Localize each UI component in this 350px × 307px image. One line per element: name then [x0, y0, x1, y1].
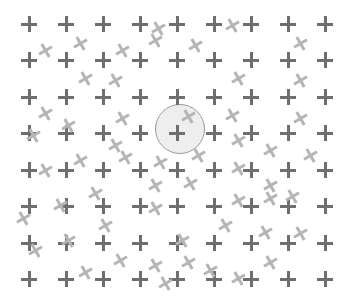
cross-icon	[95, 235, 111, 251]
cross-icon	[58, 52, 74, 68]
rotated-cross-icon	[35, 160, 55, 180]
cross-icon	[169, 89, 185, 105]
rotated-cross-icon	[228, 68, 248, 88]
cross-icon	[132, 52, 148, 68]
cross-icon	[95, 16, 111, 32]
cross-icon	[206, 52, 222, 68]
rotated-cross-icon	[222, 105, 242, 125]
cross-icon	[243, 89, 259, 105]
cross-icon	[317, 125, 333, 141]
rotated-cross-icon	[290, 70, 310, 90]
cross-pattern-stimulus	[0, 0, 350, 307]
cross-icon	[169, 16, 185, 32]
cross-icon	[21, 271, 37, 287]
cross-icon	[206, 125, 222, 141]
cross-icon	[169, 52, 185, 68]
rotated-cross-icon	[260, 252, 280, 272]
cross-icon	[21, 89, 37, 105]
rotated-cross-icon	[110, 250, 130, 270]
cross-icon	[317, 235, 333, 251]
rotated-cross-icon	[290, 33, 310, 53]
cross-icon	[317, 162, 333, 178]
cross-icon	[280, 16, 296, 32]
cross-icon	[21, 16, 37, 32]
rotated-cross-icon	[112, 108, 132, 128]
cross-icon	[206, 235, 222, 251]
cross-icon	[21, 52, 37, 68]
rotated-cross-icon	[35, 40, 55, 60]
cross-icon	[280, 52, 296, 68]
rotated-cross-icon	[178, 252, 198, 272]
cross-icon	[317, 198, 333, 214]
cross-icon	[280, 125, 296, 141]
rotated-cross-icon	[215, 215, 235, 235]
rotated-cross-icon	[75, 262, 95, 282]
cross-icon	[132, 162, 148, 178]
cross-icon	[95, 162, 111, 178]
cross-icon	[280, 271, 296, 287]
cross-icon	[95, 89, 111, 105]
cross-icon	[132, 89, 148, 105]
cross-icon	[317, 52, 333, 68]
rotated-cross-icon	[222, 15, 242, 35]
cross-icon	[58, 89, 74, 105]
cross-icon	[95, 271, 111, 287]
cross-icon	[58, 271, 74, 287]
cross-icon	[317, 16, 333, 32]
cross-icon	[21, 162, 37, 178]
cross-icon	[206, 89, 222, 105]
cross-icon	[317, 271, 333, 287]
cross-icon	[58, 16, 74, 32]
rotated-cross-icon	[70, 33, 90, 53]
cross-icon	[280, 162, 296, 178]
cross-icon	[132, 235, 148, 251]
rotated-cross-icon	[185, 35, 205, 55]
rotated-cross-icon	[150, 152, 170, 172]
rotated-cross-icon	[35, 103, 55, 123]
rotated-cross-icon	[260, 140, 280, 160]
cross-icon	[95, 52, 111, 68]
cross-icon	[206, 162, 222, 178]
cross-icon	[280, 89, 296, 105]
rotated-cross-icon	[105, 70, 125, 90]
cross-icon	[95, 125, 111, 141]
cross-icon	[169, 198, 185, 214]
rotated-cross-icon	[260, 188, 280, 208]
cross-icon	[317, 89, 333, 105]
cross-icon	[132, 16, 148, 32]
cross-icon	[132, 271, 148, 287]
cross-icon	[58, 162, 74, 178]
cross-icon	[169, 162, 185, 178]
cross-icon	[132, 125, 148, 141]
cross-icon	[169, 125, 185, 141]
cross-icon	[243, 16, 259, 32]
cross-icon	[206, 16, 222, 32]
cross-icon	[243, 52, 259, 68]
rotated-cross-icon	[75, 68, 95, 88]
rotated-cross-icon	[112, 40, 132, 60]
rotated-cross-icon	[95, 215, 115, 235]
cross-icon	[206, 198, 222, 214]
cross-icon	[243, 235, 259, 251]
